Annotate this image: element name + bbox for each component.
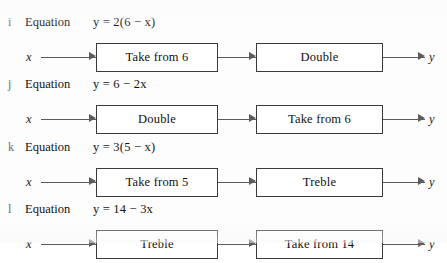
arrow-shaft xyxy=(41,57,96,58)
process-box-1-i[interactable]: Take from 6 xyxy=(96,43,218,72)
item-label-k: k xyxy=(8,139,22,156)
exercise-row-i: i Equation y = 2(6 − x) x Take from 6 Do… xyxy=(0,14,447,76)
output-variable-l: y xyxy=(429,237,435,251)
equation-expression-j: y = 6 − 2x xyxy=(93,76,147,93)
output-variable-i: y xyxy=(429,50,435,64)
item-label-l: l xyxy=(8,201,22,218)
exercise-row-k: k Equation y = 3(5 − x) x Take from 5 Tr… xyxy=(0,139,447,201)
row-header: l Equation y = 14 − 3x xyxy=(0,201,447,218)
arrow-input-to-box1-i xyxy=(41,52,96,63)
function-machine-chain-i: x Take from 6 Double y xyxy=(0,36,447,76)
arrow-box1-to-box2-i xyxy=(218,52,256,63)
function-machine-chain-k: x Take from 5 Treble y xyxy=(0,161,447,201)
equation-expression-i: y = 2(6 − x) xyxy=(93,14,155,31)
equation-word: Equation xyxy=(25,14,70,31)
output-variable-k: y xyxy=(429,175,435,189)
arrow-head-icon xyxy=(89,114,96,122)
input-variable-k: x xyxy=(26,175,32,189)
item-label-j: j xyxy=(8,76,22,93)
process-box-2-j[interactable]: Take from 6 xyxy=(256,105,383,134)
equation-word: Equation xyxy=(25,76,70,93)
row-header: i Equation y = 2(6 − x) xyxy=(0,14,447,31)
function-machine-chain-l: x Treble Take from 14 y xyxy=(0,223,447,263)
arrow-head-icon xyxy=(249,239,256,247)
arrow-head-icon xyxy=(418,239,425,247)
arrow-input-to-box1-j xyxy=(41,114,96,125)
input-variable-l: x xyxy=(26,237,32,251)
equation-expression-k: y = 3(5 − x) xyxy=(93,139,155,156)
arrow-head-icon xyxy=(249,52,256,60)
arrow-head-icon xyxy=(249,177,256,185)
arrow-box2-to-output-k xyxy=(383,177,425,188)
row-header: k Equation y = 3(5 − x) xyxy=(0,139,447,156)
arrow-shaft xyxy=(41,182,96,183)
equation-expression-l: y = 14 − 3x xyxy=(93,201,153,218)
equation-word: Equation xyxy=(25,201,70,218)
exercise-row-j: j Equation y = 6 − 2x x Double Take from… xyxy=(0,76,447,138)
arrow-box1-to-box2-j xyxy=(218,114,256,125)
arrow-head-icon xyxy=(89,52,96,60)
arrow-box1-to-box2-l xyxy=(218,239,256,250)
equation-word: Equation xyxy=(25,139,70,156)
arrow-head-icon xyxy=(418,52,425,60)
output-variable-j: y xyxy=(429,112,435,126)
input-variable-j: x xyxy=(26,112,32,126)
process-box-2-k[interactable]: Treble xyxy=(256,168,383,197)
arrow-head-icon xyxy=(418,177,425,185)
arrow-box2-to-output-i xyxy=(383,52,425,63)
row-header: j Equation y = 6 − 2x xyxy=(0,76,447,93)
arrow-box2-to-output-l xyxy=(383,239,425,250)
process-box-2-i[interactable]: Double xyxy=(256,43,383,72)
arrow-head-icon xyxy=(418,114,425,122)
arrow-box1-to-box2-k xyxy=(218,177,256,188)
process-box-1-j[interactable]: Double xyxy=(96,105,218,134)
item-label-i: i xyxy=(8,14,22,31)
process-box-2-l[interactable]: Take from 14 xyxy=(256,230,383,259)
process-box-1-l[interactable]: Treble xyxy=(96,230,218,259)
process-box-1-k[interactable]: Take from 5 xyxy=(96,168,218,197)
arrow-box2-to-output-j xyxy=(383,114,425,125)
arrow-shaft xyxy=(41,119,96,120)
exercise-row-l: l Equation y = 14 − 3x x Treble Take fro… xyxy=(0,201,447,263)
function-machine-chain-j: x Double Take from 6 y xyxy=(0,98,447,138)
arrow-head-icon xyxy=(89,239,96,247)
arrow-head-icon xyxy=(89,177,96,185)
arrow-shaft xyxy=(41,244,96,245)
arrow-head-icon xyxy=(249,114,256,122)
arrow-input-to-box1-l xyxy=(41,239,96,250)
arrow-input-to-box1-k xyxy=(41,177,96,188)
input-variable-i: x xyxy=(26,50,32,64)
